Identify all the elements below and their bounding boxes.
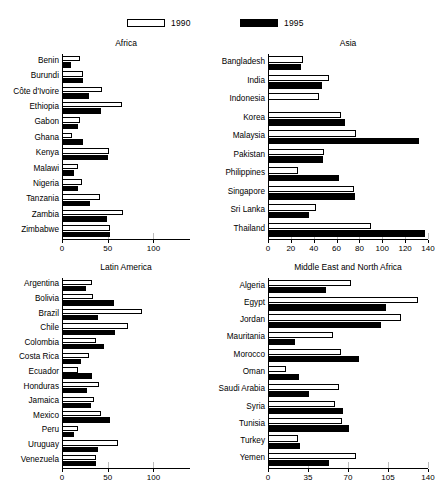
bar-1990 [268, 204, 316, 211]
legend-item-1995: 1995 [240, 18, 304, 28]
legend-swatch-1995 [240, 19, 278, 27]
category-label: Algeria [240, 282, 266, 290]
category-label: Saudi Arabia [219, 385, 265, 393]
bar-1995 [268, 156, 323, 163]
bar-1990 [268, 167, 298, 174]
x-axis-tick [428, 240, 429, 243]
category-label: Malaysia [233, 132, 265, 140]
bar-1990 [268, 384, 339, 390]
bar-1990 [268, 418, 342, 424]
x-axis-tick [405, 240, 406, 243]
bar-1995 [268, 443, 300, 449]
category-label: Korea [243, 114, 265, 122]
x-axis-tick-label: 0 [266, 244, 270, 253]
bar-1990 [268, 149, 324, 156]
legend-swatch-1990 [127, 19, 165, 27]
x-axis-tick-label: 105 [381, 473, 394, 482]
bar-1990 [268, 453, 356, 459]
x-axis-tick [314, 240, 315, 243]
category-label: Morocco [234, 351, 265, 359]
chart-panel-asia: AsiaBangladeshIndiaIndonesiaKoreaMalaysi… [0, 38, 435, 257]
bar-1995 [268, 322, 381, 328]
bar-1990 [268, 112, 341, 119]
bar-1995 [268, 230, 425, 237]
category-label: Yemen [240, 454, 265, 462]
bar-1990 [268, 130, 356, 137]
category-label: Oman [243, 368, 265, 376]
bar-1990 [268, 280, 351, 286]
x-axis-tick [359, 240, 360, 243]
category-label: India [247, 77, 265, 85]
grid-tick [428, 233, 429, 239]
chart-legend: 1990 1995 [0, 18, 435, 34]
category-label: Tunisia [239, 420, 265, 428]
bar-1990 [268, 332, 333, 338]
bar-1995 [268, 64, 301, 71]
category-label: Sri Lanka [230, 206, 265, 214]
category-label: Mauritania [227, 333, 265, 341]
x-axis-tick [268, 240, 269, 243]
plot-area-asia: BangladeshIndiaIndonesiaKoreaMalaysiaPak… [268, 54, 428, 239]
category-label: Egypt [244, 299, 265, 307]
x-axis-tick-label: 35 [304, 473, 313, 482]
x-axis-tick-label: 70 [344, 473, 353, 482]
panel-title-mena: Middle East and North Africa [268, 262, 428, 272]
bar-1990 [268, 56, 303, 63]
bar-1990 [268, 349, 341, 355]
bar-1990 [268, 186, 354, 193]
bar-1995 [268, 212, 309, 219]
x-axis-tick-label: 140 [421, 244, 434, 253]
x-axis-tick [382, 240, 383, 243]
x-axis-tick-label: 100 [376, 244, 389, 253]
bar-1995 [268, 119, 345, 126]
category-label: Syria [246, 403, 265, 411]
legend-label-1995: 1995 [284, 18, 304, 28]
plot-area-mena: AlgeriaEgyptJordanMauritaniaMoroccoOmanS… [268, 278, 428, 468]
bar-1995 [268, 287, 326, 293]
x-axis-tick [268, 469, 269, 472]
bar-1995 [268, 460, 329, 466]
bar-1990 [268, 297, 418, 303]
category-label: Indonesia [229, 95, 265, 103]
bar-1995 [268, 304, 386, 310]
category-label: Philippines [225, 169, 265, 177]
x-axis-tick [428, 469, 429, 472]
x-axis-tick-label: 0 [266, 473, 270, 482]
bar-1990 [268, 366, 286, 372]
x-axis-tick [291, 240, 292, 243]
category-label: Singapore [228, 188, 265, 196]
bar-1995 [268, 339, 295, 345]
x-axis-tick-label: 40 [309, 244, 318, 253]
category-label: Bangladesh [222, 58, 265, 66]
category-label: Pakistan [234, 151, 265, 159]
x-axis-tick [337, 240, 338, 243]
category-label: Thailand [234, 225, 265, 233]
x-axis-tick [388, 469, 389, 472]
chart-panel-mena: Middle East and North AfricaAlgeriaEgypt… [0, 262, 435, 486]
legend-label-1990: 1990 [171, 18, 191, 28]
bar-1990 [268, 75, 329, 82]
x-axis-tick [308, 469, 309, 472]
bar-1995 [268, 374, 299, 380]
bar-1995 [268, 193, 355, 200]
y-axis-line [268, 278, 269, 468]
x-axis-tick-label: 60 [332, 244, 341, 253]
y-axis-line [268, 54, 269, 239]
panel-title-asia: Asia [268, 38, 428, 48]
bar-1990 [268, 314, 401, 320]
x-axis-tick-label: 140 [421, 473, 434, 482]
category-label: Jordan [240, 316, 265, 324]
bar-1990 [268, 435, 298, 441]
x-axis-tick-label: 80 [355, 244, 364, 253]
figure-root: 1990 1995 AfricaBeninBurundiCôte d'Ivoir… [0, 0, 435, 492]
grid-tick [428, 462, 429, 468]
legend-item-1990: 1990 [127, 18, 191, 28]
bar-1995 [268, 82, 322, 89]
x-axis-tick-label: 20 [286, 244, 295, 253]
bar-1995 [268, 391, 309, 397]
x-axis-tick-label: 120 [398, 244, 411, 253]
bar-1995 [268, 138, 419, 145]
bar-1990 [268, 223, 371, 230]
bar-1995 [268, 175, 339, 182]
bar-1995 [268, 356, 359, 362]
